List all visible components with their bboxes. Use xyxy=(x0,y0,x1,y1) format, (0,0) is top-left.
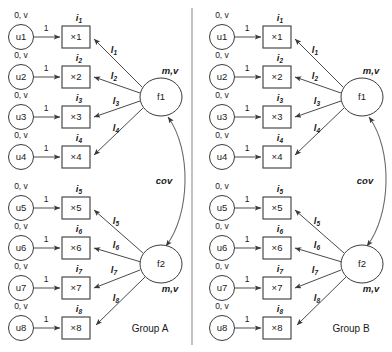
residual-param-label: 0, v xyxy=(215,90,229,100)
indicator-box-label: ×3 xyxy=(272,111,283,122)
loading-label-l6: l6 xyxy=(314,239,321,251)
residual-node-label: u4 xyxy=(16,151,27,162)
loading-label-l8: l8 xyxy=(314,292,321,304)
residual-node-label: u3 xyxy=(16,111,27,122)
residual-node-label: u5 xyxy=(217,202,228,213)
residual-param-label: 0, v xyxy=(14,301,28,311)
loading-label-l7: l7 xyxy=(312,264,319,276)
residual-param-label: 0, v xyxy=(215,221,229,231)
group-a-indicator-row-3: 0, v u3 1 ×3 i3 l3 xyxy=(9,90,141,130)
indicator-box-label: ×8 xyxy=(272,322,283,333)
group-b-indicator-row-7: 0, v u7 1 ×7 i7 l7 xyxy=(210,261,342,301)
group-b-label: Group B xyxy=(332,323,370,334)
residual-param-label: 0, v xyxy=(14,50,28,60)
fixed-loading-label: 1 xyxy=(245,103,250,113)
indicator-box-label: ×3 xyxy=(71,111,82,122)
indicator-box-label: ×2 xyxy=(71,71,82,82)
factor-node-label: f2 xyxy=(157,258,165,269)
group-b-indicator-row-2: 0, v u2 1 ×2 i2 l2 xyxy=(210,50,342,93)
factor-param-label-f1: m,v xyxy=(363,65,380,76)
indicator-box-label: ×6 xyxy=(71,242,82,253)
intercept-label: i8 xyxy=(76,303,83,315)
fixed-loading-label: 1 xyxy=(245,63,250,73)
residual-node-label: u7 xyxy=(217,282,228,293)
indicator-box-label: ×5 xyxy=(272,202,283,213)
residual-param-label: 0, v xyxy=(215,10,229,20)
residual-node-label: u6 xyxy=(217,242,228,253)
group-a-indicator-row-6: 0, v u6 1 ×6 i6 l6 xyxy=(9,221,142,262)
loading-label-l6: l6 xyxy=(113,239,120,251)
residual-node-label: u8 xyxy=(16,322,27,333)
factor-node-label: f2 xyxy=(358,258,366,269)
loading-label-l4: l4 xyxy=(113,122,120,134)
group-b-panel: 0, v u1 1 ×1 i1 l1 0, v u2 xyxy=(210,10,387,341)
fixed-loading-label: 1 xyxy=(44,103,49,113)
loading-label-l3: l3 xyxy=(314,95,321,107)
residual-param-label: 0, v xyxy=(215,181,229,191)
intercept-label: i5 xyxy=(277,183,284,195)
group-a-indicator-row-7: 0, v u7 1 ×7 i7 l7 xyxy=(9,261,141,301)
factor-node-label: f1 xyxy=(358,91,366,102)
group-b-indicator-row-3: 0, v u3 1 ×3 i3 l3 xyxy=(210,90,342,130)
group-a-factor-f2-cluster: 0, v u5 1 ×5 i5 l5 0, v u6 xyxy=(9,181,183,341)
intercept-label: i8 xyxy=(277,303,284,315)
intercept-label: i6 xyxy=(76,223,83,235)
intercept-label: i1 xyxy=(76,12,83,24)
covariance-label: cov xyxy=(357,175,374,186)
loading-label-l2: l2 xyxy=(312,70,319,82)
loading-label-l8: l8 xyxy=(113,292,120,304)
intercept-label: i7 xyxy=(76,263,83,275)
residual-param-label: 0, v xyxy=(14,90,28,100)
residual-node-label: u6 xyxy=(16,242,27,253)
fixed-loading-label: 1 xyxy=(245,23,250,33)
indicator-box-label: ×6 xyxy=(272,242,283,253)
loading-label-l1: l1 xyxy=(111,44,118,56)
indicator-box-label: ×5 xyxy=(71,202,82,213)
fixed-loading-label: 1 xyxy=(44,274,49,284)
factor-node-label: f1 xyxy=(157,91,165,102)
group-a-label: Group A xyxy=(132,323,169,334)
residual-param-label: 0, v xyxy=(215,261,229,271)
group-a-factor-f1-cluster: 0, v u1 1 ×1 i1 l1 0, v u2 xyxy=(9,10,183,170)
intercept-label: i2 xyxy=(277,52,284,64)
residual-node-label: u2 xyxy=(16,71,27,82)
factor-param-label-f2: m,v xyxy=(162,283,179,294)
group-b-indicator-row-6: 0, v u6 1 ×6 i6 l6 xyxy=(210,221,343,262)
diagram-canvas: 0, v u1 1 ×1 i1 l1 0, v u2 xyxy=(0,0,392,352)
fixed-loading-label: 1 xyxy=(245,274,250,284)
indicator-box-label: ×7 xyxy=(71,282,82,293)
intercept-label: i3 xyxy=(277,92,284,104)
covariance-label: cov xyxy=(156,175,173,186)
fixed-loading-label: 1 xyxy=(44,23,49,33)
fixed-loading-label: 1 xyxy=(44,234,49,244)
residual-param-label: 0, v xyxy=(215,50,229,60)
residual-param-label: 0, v xyxy=(14,261,28,271)
residual-param-label: 0, v xyxy=(14,10,28,20)
intercept-label: i1 xyxy=(277,12,284,24)
residual-param-label: 0, v xyxy=(215,130,229,140)
loading-label-l1: l1 xyxy=(312,44,319,56)
loading-label-l2: l2 xyxy=(111,70,118,82)
fixed-loading-label: 1 xyxy=(44,314,49,324)
fixed-loading-label: 1 xyxy=(44,143,49,153)
indicator-box-label: ×4 xyxy=(71,151,82,162)
loading-label-l7: l7 xyxy=(111,264,118,276)
residual-node-label: u1 xyxy=(217,31,228,42)
indicator-box-label: ×1 xyxy=(272,31,283,42)
residual-node-label: u3 xyxy=(217,111,228,122)
indicator-box-label: ×7 xyxy=(272,282,283,293)
loading-label-l4: l4 xyxy=(314,122,321,134)
indicator-box-label: ×8 xyxy=(71,322,82,333)
residual-node-label: u1 xyxy=(16,31,27,42)
intercept-label: i7 xyxy=(277,263,284,275)
group-b-factor-f1-cluster: 0, v u1 1 ×1 i1 l1 0, v u2 xyxy=(210,10,384,170)
residual-param-label: 0, v xyxy=(14,181,28,191)
group-b-factor-f2-cluster: 0, v u5 1 ×5 i5 l5 0, v u6 xyxy=(210,181,384,341)
fixed-loading-label: 1 xyxy=(245,234,250,244)
intercept-label: i3 xyxy=(76,92,83,104)
intercept-label: i4 xyxy=(277,132,284,144)
residual-node-label: u2 xyxy=(217,71,228,82)
residual-node-label: u8 xyxy=(217,322,228,333)
fixed-loading-label: 1 xyxy=(245,194,250,204)
indicator-box-label: ×4 xyxy=(272,151,283,162)
